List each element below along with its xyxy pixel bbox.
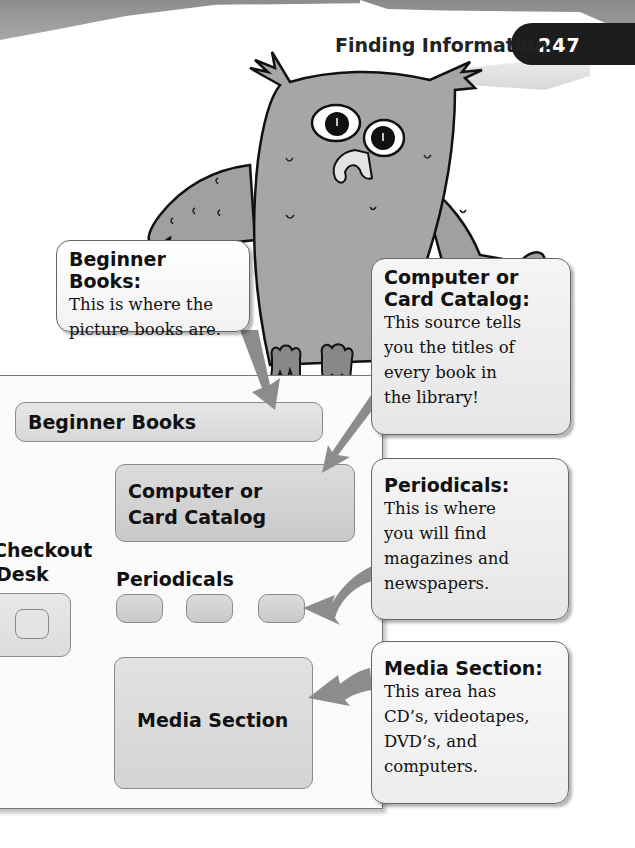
callout-text-line: you will find: [384, 521, 556, 546]
callout-text-line: This source tells: [384, 310, 558, 335]
callout-card-catalog: Computer or Card Catalog: This source te…: [371, 258, 571, 435]
arrow-media-icon: [308, 668, 372, 706]
callout-periodicals: Periodicals: This is where you will find…: [371, 458, 569, 620]
callout-title-beginner-books: Beginner Books:: [69, 248, 237, 292]
callout-text-line: This is where: [384, 496, 556, 521]
callout-title-card-catalog-line2: Card Catalog:: [384, 288, 558, 310]
callout-text-line: newspapers.: [384, 571, 556, 596]
callout-text-line: picture books are.: [69, 317, 237, 342]
callout-text-line: computers.: [384, 754, 556, 779]
callout-title-card-catalog-line1: Computer or: [384, 266, 558, 288]
callout-media-section: Media Section: This area has CD’s, video…: [371, 641, 569, 804]
callout-text-line: every book in: [384, 360, 558, 385]
callout-text-line: the library!: [384, 385, 558, 410]
callout-beginner-books: Beginner Books: This is where the pictur…: [56, 240, 250, 332]
callout-text-line: you the titles of: [384, 335, 558, 360]
callout-text-line: CD’s, videotapes,: [384, 704, 556, 729]
callout-text-line: DVD’s, and: [384, 729, 556, 754]
callout-title-media-section: Media Section:: [384, 657, 556, 679]
callout-text-line: This is where the: [69, 292, 237, 317]
callout-text-line: magazines and: [384, 546, 556, 571]
arrow-periodicals-icon: [303, 566, 376, 625]
callout-title-periodicals: Periodicals:: [384, 474, 556, 496]
arrow-beginner-books-icon: [240, 330, 280, 410]
callout-text-line: This area has: [384, 679, 556, 704]
